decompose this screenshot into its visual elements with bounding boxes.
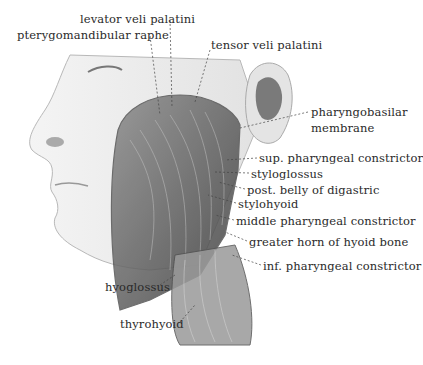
label-membrane: membrane — [311, 122, 374, 135]
label-sup-pharyngeal-constrictor: sup. pharyngeal constrictor — [259, 152, 423, 165]
label-hyoglossus: hyoglossus — [105, 281, 170, 294]
label-middle-pharyngeal-constrictor: middle pharyngeal constrictor — [236, 215, 416, 228]
label-levator-veli-palatini: levator veli palatini — [80, 13, 195, 26]
label-inf-pharyngeal-constrictor: inf. pharyngeal constrictor — [263, 260, 421, 273]
nostril — [46, 137, 64, 147]
label-styloglossus: styloglossus — [251, 168, 323, 181]
label-stylohyoid: stylohyoid — [238, 198, 299, 211]
label-post-belly-digastric: post. belly of digastric — [247, 184, 379, 197]
label-greater-horn-hyoid: greater horn of hyoid bone — [249, 236, 408, 249]
label-pharyngobasilar: pharyngobasilar — [311, 106, 408, 119]
label-thyrohyoid: thyrohyoid — [120, 318, 184, 331]
label-tensor-veli-palatini: tensor veli palatini — [211, 39, 322, 52]
label-pterygomandibular-raphe: pterygomandibular raphe — [17, 29, 169, 42]
